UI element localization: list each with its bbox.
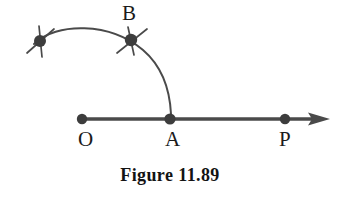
point-P	[280, 114, 290, 124]
point-label-A: A	[165, 129, 180, 150]
point-label-B: B	[122, 3, 136, 24]
point-B	[125, 34, 137, 46]
point-label-O: O	[78, 129, 93, 150]
arc-from-compass-point-through-B-to-A	[34, 28, 171, 114]
point-O	[77, 114, 87, 124]
point-label-P: P	[279, 129, 291, 150]
figure-11-89: B O A P Figure 11.89	[0, 0, 340, 200]
figure-caption: Figure 11.89	[0, 166, 340, 184]
compass-point-left	[34, 35, 46, 47]
point-A	[164, 113, 175, 124]
